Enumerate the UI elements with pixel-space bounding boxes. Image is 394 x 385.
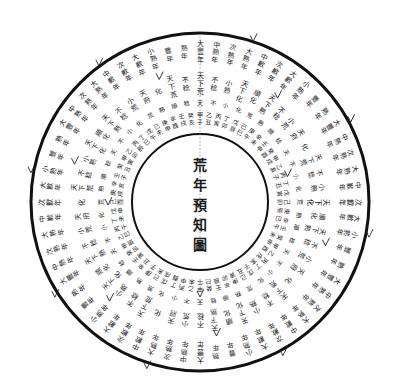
title-char: 荒: [192, 157, 207, 173]
ring-char: 荒: [85, 185, 95, 193]
title-char: 預: [193, 197, 208, 213]
ring-char: 大: [197, 39, 204, 48]
ring-char: 丑: [205, 118, 212, 126]
title-char: 年: [193, 177, 207, 193]
ring-char: 年: [197, 340, 204, 349]
ring-char: 次: [354, 199, 363, 206]
ring-char: 稔: [182, 83, 190, 93]
ring-char: 荒: [182, 311, 190, 321]
ring-char: 年: [53, 213, 63, 221]
ring-char: 天: [197, 99, 203, 107]
ring-char: 大: [197, 356, 204, 365]
ring-char: 下: [314, 199, 322, 206]
ring-char: 荒: [97, 199, 105, 205]
ring-char: 稔: [197, 312, 204, 321]
ring-char: 年: [211, 55, 219, 65]
ring-char: 年: [338, 199, 347, 206]
ring-char: 年: [181, 51, 189, 61]
ring-char: 稔: [210, 83, 218, 93]
ring-char: 子: [197, 118, 203, 125]
ring-char: 年: [337, 183, 347, 191]
ring-char: 巳: [205, 278, 212, 286]
ring-char: 天: [322, 199, 330, 206]
ring-char: 不: [197, 320, 204, 328]
ring-char: 荒: [197, 87, 204, 96]
ring-char: 熟: [309, 184, 319, 192]
ring-char: 年: [53, 183, 63, 191]
title-char: 知: [193, 217, 207, 233]
ring-char: 年: [53, 199, 62, 206]
ring-char: 歉: [346, 199, 355, 206]
ring-char: 豐: [197, 348, 204, 357]
ring-char: 歉: [45, 199, 54, 206]
famine-year-foreknowledge-diagram: 大豐年中熟年次熟年大熟年中歉年次歉年大歉年小熟年豐年熟年大豐年中熟年次熟年大熟年…: [0, 0, 394, 385]
ring-char: 化: [77, 199, 86, 206]
ring-char: 天: [197, 298, 203, 306]
ring-char: 下: [197, 80, 204, 88]
ring-char: 化: [306, 199, 315, 206]
center-title: 荒年預知圖: [192, 157, 208, 253]
ring-char: 年: [211, 343, 219, 353]
ring-char: 次: [37, 199, 46, 206]
ring-char: 午: [197, 278, 203, 286]
ring-char: 年: [197, 55, 204, 64]
ring-char: 天: [197, 72, 204, 80]
ring-char: 年: [337, 213, 347, 221]
ring-char: 荒: [296, 199, 304, 205]
ring-char: 豐: [197, 47, 204, 56]
ring-char: 酉: [116, 199, 124, 205]
ring-char: 己: [284, 199, 291, 205]
ring-char: 熟: [209, 307, 217, 317]
title-char: 圖: [193, 237, 207, 253]
ring-char: 府: [81, 212, 91, 220]
ring-char: 卯: [276, 199, 284, 205]
ring-char: 年: [181, 339, 189, 349]
ring-char: 化: [309, 212, 319, 220]
